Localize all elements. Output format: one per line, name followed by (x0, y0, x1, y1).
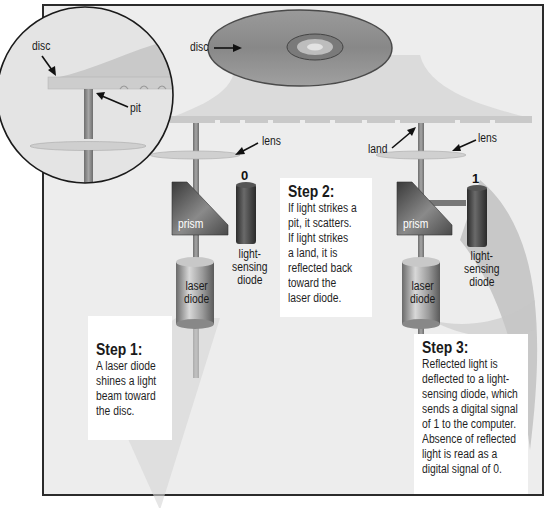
prism-left-label: prism (178, 218, 203, 231)
laser-diode-left-line2: diode (184, 293, 209, 306)
optical-disc-diagram: disc disc pit lens lens land prism prism… (0, 0, 552, 508)
laser-diode-right-label: laser diode (410, 280, 435, 306)
sensing-diode-left-line3: diode (232, 274, 268, 287)
step-2-body: If light strikes a pit, it scatters. If … (288, 201, 360, 306)
step-2-box: Step 2: If light strikes a pit, it scatt… (280, 178, 372, 317)
pit-label: pit (130, 102, 141, 115)
disc-cross-section (170, 116, 532, 123)
disc-zoom-label: disc (32, 40, 50, 53)
lens-left (150, 151, 240, 159)
laser-diode-left-label: laser diode (184, 280, 209, 306)
step-3-box: Step 3: Reflected light is deflected to … (414, 334, 528, 494)
land-label: land (368, 143, 388, 156)
magnified-view (0, 7, 178, 190)
step-1-title: Step 1: (96, 340, 158, 359)
laser-diode-right-line2: diode (410, 293, 435, 306)
lens-right-label: lens (478, 132, 497, 145)
prism-right-label: prism (403, 218, 428, 231)
sensing-diode-right-line3: diode (464, 276, 500, 289)
step-3-body: Reflected light is deflected to a light-… (422, 357, 513, 477)
lens-left-label: lens (262, 135, 281, 148)
signal-zero: 0 (241, 168, 248, 183)
disc-label: disc (190, 41, 208, 54)
step-1-body: A laser diode shines a light beam toward… (96, 359, 161, 419)
step-2-title: Step 2: (288, 182, 357, 201)
light-sensing-diode-right (467, 187, 487, 247)
step-1-box: Step 1: A laser diode shines a light bea… (88, 316, 172, 440)
lens-right (376, 151, 466, 159)
sensing-diode-right-label: light- sensing diode (464, 250, 500, 289)
step-3-title: Step 3: (422, 338, 509, 357)
light-sensing-diode-left (236, 184, 256, 244)
sensing-diode-left-label: light- sensing diode (232, 248, 268, 287)
signal-one: 1 (472, 171, 479, 186)
